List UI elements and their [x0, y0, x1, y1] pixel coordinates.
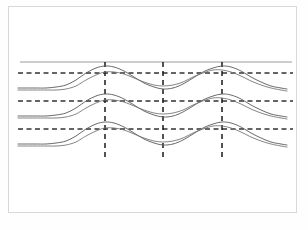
- figure-canvas: [0, 0, 308, 230]
- wave-curve-band-1-curve-a: [18, 66, 287, 89]
- wave-curve-group: [18, 66, 287, 147]
- wave-curve-band-3-curve-b: [18, 126, 287, 147]
- wave-diagram-plot: [0, 0, 308, 230]
- wave-curve-band-2-curve-b: [18, 98, 287, 119]
- wave-curve-band-1-curve-b: [18, 70, 287, 91]
- wave-curve-band-2-curve-a: [18, 94, 287, 117]
- wave-curve-band-3-curve-a: [18, 122, 287, 145]
